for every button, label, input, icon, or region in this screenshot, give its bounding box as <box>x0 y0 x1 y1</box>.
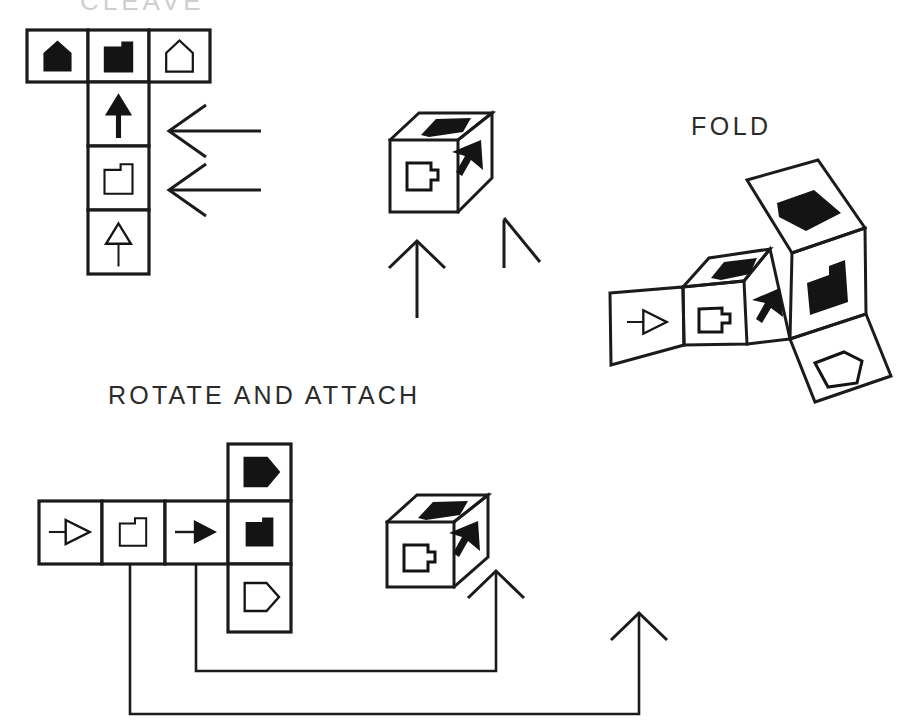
fold-cube-front-glyph <box>699 308 730 332</box>
stage-fold-assembly <box>610 160 891 402</box>
stage-middle-cube <box>389 113 540 318</box>
fold-cube-top-glyph <box>711 258 757 280</box>
stage-cleave-net <box>27 30 210 274</box>
fold-right-flap-glyph <box>807 260 848 315</box>
cue-arrow-up-half <box>504 218 540 268</box>
fold-upper-flap-glyph <box>777 190 841 231</box>
fold-cube-right-glyph <box>752 288 783 323</box>
fold-lower-right-flap-glyph <box>815 352 862 387</box>
stage-rotate-attach-net <box>39 444 291 632</box>
label-cleave: CLEAVE <box>80 0 205 16</box>
label-rotate-and-attach: ROTATE AND ATTACH <box>108 381 420 409</box>
label-fold: FOLD <box>691 112 772 140</box>
cue-arrow-up-full <box>389 241 445 318</box>
cube-front-glyph <box>407 163 438 190</box>
cube-fold-diagram: CLEAVE <box>0 0 918 728</box>
fold-left-flap-glyph <box>627 310 667 333</box>
cue-arrow-left-lower <box>169 164 261 216</box>
cue-arrow-left-upper <box>169 105 261 157</box>
figure-canvas: CLEAVE <box>0 0 918 728</box>
result-cube-front-glyph <box>404 545 435 571</box>
stage-result-cube <box>387 495 488 587</box>
